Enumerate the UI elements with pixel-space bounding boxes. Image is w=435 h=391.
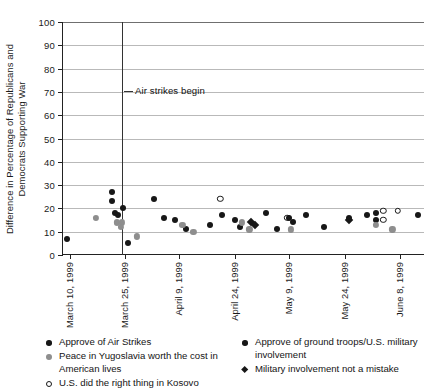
y-axis-tick-label: 50	[44, 133, 55, 144]
y-axis-tick-label: 90	[44, 40, 55, 51]
y-gridline	[63, 162, 424, 163]
x-axis-tick	[289, 254, 290, 259]
x-axis-tick-label: April 24, 1999	[230, 262, 240, 321]
y-axis-tick	[58, 185, 63, 186]
legend-column-left: Approve of Air StrikesPeace in Yugoslavi…	[44, 336, 234, 391]
legend-item[interactable]: Peace in Yugoslavia worth the cost in Am…	[44, 350, 234, 375]
data-point	[109, 198, 115, 204]
plot-area: 0102030405060708090100March 10, 1999Marc…	[62, 22, 424, 255]
data-point	[217, 196, 223, 202]
y-gridline	[63, 115, 424, 116]
legend-item-label: Military involvement not a mistake	[255, 363, 430, 376]
y-gridline	[63, 208, 424, 209]
grey-marker-icon	[46, 354, 52, 360]
data-point	[134, 233, 140, 239]
y-gridline	[63, 185, 424, 186]
data-point	[161, 215, 167, 221]
y-axis-tick-label: 0	[50, 250, 55, 261]
data-point	[207, 222, 213, 228]
y-axis-tick-label: 40	[44, 156, 55, 167]
y-axis-title: Difference in Percentage of Republicans …	[4, 24, 28, 254]
legend-item[interactable]: Approve of Air Strikes	[44, 336, 234, 349]
legend-item-label: U.S. did the right thing in Kosovo	[59, 377, 234, 390]
legend-item-label: Approve of ground troops/U.S. military i…	[255, 336, 430, 361]
data-point	[64, 236, 70, 242]
data-point	[118, 224, 124, 230]
y-axis-tick-label: 70	[44, 86, 55, 97]
y-gridline	[63, 45, 424, 46]
y-axis-tick-label: 80	[44, 63, 55, 74]
y-axis-tick-label: 30	[44, 180, 55, 191]
y-axis-tick	[58, 115, 63, 116]
y-axis-tick	[58, 232, 63, 233]
diamond-marker-icon	[241, 366, 249, 374]
legend-item[interactable]: Approve of ground troops/U.S. military i…	[240, 336, 430, 361]
data-point	[395, 208, 401, 214]
y-gridline	[63, 92, 424, 93]
data-point	[364, 212, 370, 218]
legend-item-label: Peace in Yugoslavia worth the cost in Am…	[59, 350, 234, 375]
scatter-chart-figure: Difference in Percentage of Republicans …	[0, 0, 435, 391]
data-point	[151, 196, 157, 202]
data-point	[415, 212, 421, 218]
annotation-leader-line	[124, 91, 133, 92]
filled-marker-icon	[46, 340, 52, 346]
data-point	[219, 212, 225, 218]
data-point	[115, 212, 121, 218]
data-point	[373, 222, 379, 228]
y-axis-tick	[58, 92, 63, 93]
y-axis-tick	[58, 208, 63, 209]
y-gridline	[63, 69, 424, 70]
data-point	[190, 229, 196, 235]
x-axis-tick-label: April 9, 1999	[174, 262, 184, 316]
legend-item[interactable]: Military involvement not a mistake	[240, 363, 430, 376]
legend-item-label: Approve of Air Strikes	[59, 336, 234, 349]
x-axis-tick	[400, 254, 401, 259]
data-point	[274, 226, 280, 232]
data-point	[239, 219, 245, 225]
x-axis-tick-label: May 9, 1999	[284, 262, 294, 314]
y-axis-tick	[58, 22, 63, 23]
x-axis-tick-label: June 8, 1999	[395, 262, 405, 317]
x-axis-tick-label: March 25, 1999	[120, 262, 130, 328]
data-point	[380, 217, 386, 223]
y-axis-tick	[58, 162, 63, 163]
y-axis-tick	[58, 69, 63, 70]
legend-column-right: Approve of ground troops/U.S. military i…	[240, 336, 430, 377]
y-axis-tick-label: 10	[44, 226, 55, 237]
data-point	[120, 205, 126, 211]
open-marker-icon	[46, 381, 52, 387]
data-point	[172, 217, 178, 223]
data-point	[263, 210, 269, 216]
y-gridline	[63, 22, 424, 23]
data-point	[183, 226, 189, 232]
chart-legend: Approve of Air StrikesPeace in Yugoslavi…	[44, 336, 424, 390]
x-axis-tick-label: May 24, 1999	[340, 262, 350, 320]
y-axis-tick-label: 60	[44, 110, 55, 121]
x-axis-tick	[70, 254, 71, 259]
y-axis-tick	[58, 255, 63, 256]
x-axis-tick-label: March 10, 1999	[65, 262, 75, 328]
data-point	[303, 212, 309, 218]
filled-marker-icon	[242, 340, 248, 346]
data-point	[109, 189, 115, 195]
y-axis-tick	[58, 139, 63, 140]
air-strikes-annotation-label: Air strikes begin	[135, 85, 205, 96]
y-gridline	[63, 232, 424, 233]
data-point	[380, 208, 386, 214]
data-point	[290, 219, 296, 225]
x-axis-tick	[345, 254, 346, 259]
data-point	[232, 217, 238, 223]
legend-item[interactable]: U.S. did the right thing in Kosovo	[44, 377, 234, 390]
y-gridline	[63, 139, 424, 140]
data-point	[373, 210, 379, 216]
x-axis-tick	[179, 254, 180, 259]
x-axis-tick	[235, 254, 236, 259]
y-axis-tick-label: 20	[44, 203, 55, 214]
data-point	[125, 240, 131, 246]
y-axis-tick	[58, 45, 63, 46]
data-point	[321, 224, 327, 230]
x-axis-tick	[125, 254, 126, 259]
data-point	[92, 215, 98, 221]
y-axis-tick-label: 100	[39, 17, 55, 28]
